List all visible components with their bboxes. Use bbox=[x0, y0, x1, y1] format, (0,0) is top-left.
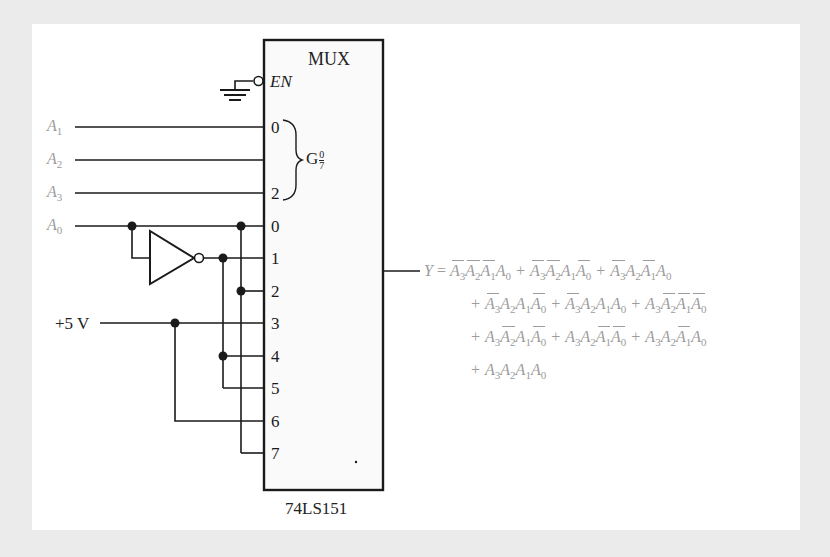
equation-term: A3A2A1A0 bbox=[645, 296, 706, 315]
equation-term: A3A2A1A0 bbox=[530, 263, 591, 282]
inverter-icon bbox=[150, 231, 194, 284]
data-pin-2: 2 bbox=[271, 283, 280, 300]
circuit-schematic bbox=[0, 0, 830, 557]
output-equation-line-2: +A3A2A1A0+A3A2A1A0+A3A2A1A0 bbox=[466, 296, 706, 315]
output-equation-line-4: +A3A2A1A0 bbox=[466, 362, 546, 381]
output-equation-line-1: Y = A3A2A1A0+A3A2A1A0+A3A2A1A0 bbox=[424, 263, 671, 282]
equation-term: A3A2A1A0 bbox=[485, 362, 546, 381]
data-pin-6: 6 bbox=[271, 413, 280, 430]
part-number: 74LS151 bbox=[285, 500, 347, 517]
equation-terms: +A3A2A1A0+A3A2A1A0+A3A2A1A0 bbox=[466, 295, 706, 312]
output-equation-line-3: +A3A2A1A0+A3A2A1A0+A3A2A1A0 bbox=[466, 329, 706, 348]
data-pin-5: 5 bbox=[271, 380, 280, 397]
equation-term: A3A2A1A0 bbox=[565, 296, 626, 315]
equation-term: A3A2A1A0 bbox=[485, 329, 546, 348]
equation-term: A3A2A1A0 bbox=[485, 296, 546, 315]
enable-label: EN bbox=[270, 73, 292, 90]
data-pin-0: 0 bbox=[271, 218, 280, 235]
input-label-a3: A3 bbox=[47, 184, 62, 203]
data-pin-7: 7 bbox=[271, 445, 280, 462]
equation-term: A3A2A1A0 bbox=[450, 263, 511, 282]
equation-terms: +A3A2A1A0+A3A2A1A0+A3A2A1A0 bbox=[466, 328, 706, 345]
mux-title: MUX bbox=[308, 50, 350, 68]
equation-term: A3A2A1A0 bbox=[610, 263, 671, 282]
supply-label: +5 V bbox=[55, 315, 89, 332]
data-pin-4: 4 bbox=[271, 348, 280, 365]
select-pin-2: 2 bbox=[271, 185, 280, 202]
equation-term: A3A2A1A0 bbox=[645, 329, 706, 348]
select-pin-0: 0 bbox=[271, 119, 280, 136]
input-label-a1: A1 bbox=[47, 118, 62, 137]
select-group-label: G07 bbox=[306, 150, 324, 171]
mux-box bbox=[264, 40, 383, 490]
ground-wire bbox=[235, 81, 253, 90]
equation-term: A3A2A1A0 bbox=[565, 329, 626, 348]
data-pin-1: 1 bbox=[271, 250, 280, 267]
input-label-a0: A0 bbox=[47, 217, 62, 236]
data-pin-3: 3 bbox=[271, 315, 280, 332]
equation-terms: +A3A2A1A0 bbox=[466, 361, 546, 378]
enable-bubble bbox=[254, 77, 263, 86]
equation-terms: A3A2A1A0+A3A2A1A0+A3A2A1A0 bbox=[450, 262, 671, 279]
input-label-a2: A2 bbox=[47, 151, 62, 170]
